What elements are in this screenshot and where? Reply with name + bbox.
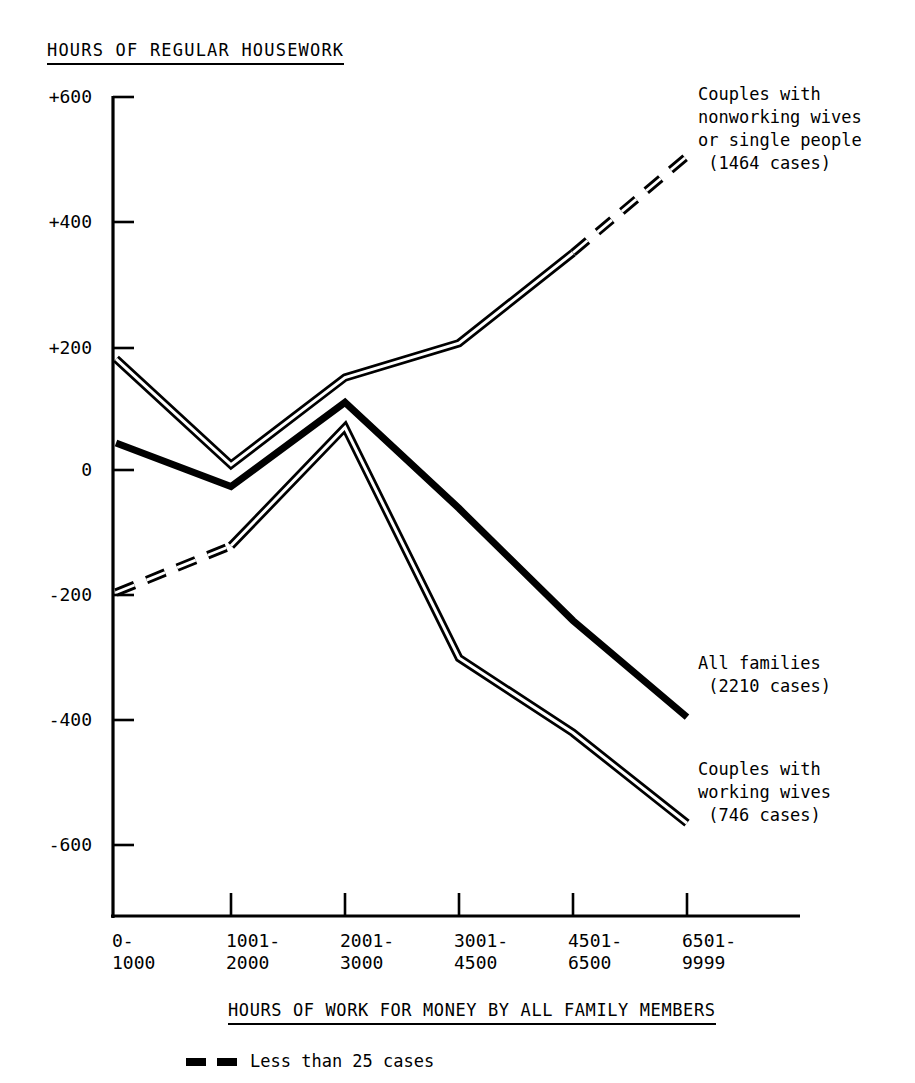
y-tick-label-0: 0 <box>22 459 92 480</box>
y-tick-label-200n: -200 <box>22 584 92 605</box>
x-tick-label-0-1000: 0- 1000 <box>112 930 155 974</box>
series-all-families-line <box>116 402 687 717</box>
footnote-text: Less than 25 cases <box>250 1051 434 1071</box>
series-label-working-wives: Couples with working wives (746 cases) <box>698 758 831 827</box>
y-tick-label-200p: +200 <box>22 337 92 358</box>
y-tick-label-600n: -600 <box>22 834 92 855</box>
y-tick-label-400n: -400 <box>22 709 92 730</box>
x-axis-title: HOURS OF WORK FOR MONEY BY ALL FAMILY ME… <box>228 1000 716 1025</box>
x-tick-label-1001-2000: 1001- 2000 <box>226 930 280 974</box>
series-label-all-families: All families (2210 cases) <box>698 652 831 698</box>
series-label-nonworking-wives: Couples with nonworking wives or single … <box>698 83 862 175</box>
series-nonworking-wives-line <box>116 156 687 465</box>
x-tick-label-2001-3000: 2001- 3000 <box>340 930 394 974</box>
y-tick-marks <box>113 97 134 845</box>
y-tick-label-400p: +400 <box>22 211 92 232</box>
x-tick-label-4501-6500: 4501- 6500 <box>568 930 622 974</box>
x-tick-marks <box>231 893 687 916</box>
y-tick-label-600p: +600 <box>22 86 92 107</box>
x-tick-label-3001-4500: 3001- 4500 <box>454 930 508 974</box>
x-tick-label-6501-9999: 6501- 9999 <box>682 930 736 974</box>
series-working-wives-line <box>116 427 687 823</box>
chart-figure: HOURS OF REGULAR HOUSEWORK <box>0 0 915 1083</box>
